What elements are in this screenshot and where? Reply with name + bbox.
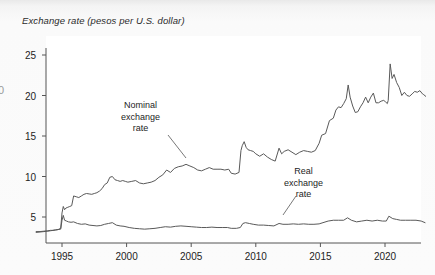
x-axis-tick-label: 2020	[365, 251, 405, 262]
exchange-rate-chart	[0, 0, 435, 275]
x-axis-tick-label: 2015	[300, 251, 340, 262]
annotation-nominal-exchange-rate: Nominalexchangerate	[121, 100, 160, 135]
annotation-line: Real	[284, 166, 323, 178]
x-axis-tick-label: 1995	[42, 251, 82, 262]
chart-svg	[0, 0, 435, 275]
y-axis-tick-label: 5	[10, 212, 36, 223]
x-axis-tick-label: 2000	[107, 251, 147, 262]
y-axis-tick-label: 25	[10, 50, 36, 61]
annotation-line: exchange	[284, 178, 323, 190]
x-axis-tick-label: 2010	[236, 251, 276, 262]
annotation-line: Nominal	[121, 100, 160, 112]
y-axis-tick-label: 20	[10, 90, 36, 101]
annotation-line: exchange	[121, 112, 160, 124]
annotation-line: rate	[284, 189, 323, 201]
x-axis-tick-label: 2005	[171, 251, 211, 262]
annotation-line: rate	[121, 123, 160, 135]
y-axis-tick-label: 15	[10, 131, 36, 142]
y-axis-tick-label: 10	[10, 171, 36, 182]
plot-area-background	[46, 36, 421, 243]
annotation-real-exchange-rate: Realexchangerate	[284, 166, 323, 201]
